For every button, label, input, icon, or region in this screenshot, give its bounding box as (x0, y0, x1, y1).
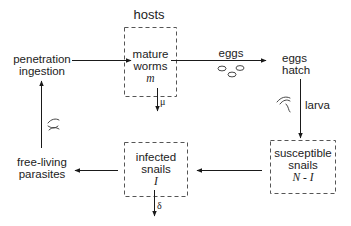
hosts-title: hosts (125, 8, 173, 22)
infected-snails-node: infected snails I (124, 151, 188, 187)
free-living-label: free-living (2, 156, 82, 168)
susceptible-snails-variable: N - I (268, 171, 338, 183)
cercaria-icon (48, 119, 59, 130)
eggs-edge-label: eggs (216, 47, 246, 59)
penetration-label: penetration (2, 53, 82, 65)
susceptible-snails-node: susceptible snails N - I (268, 147, 338, 183)
eggs-hatch-node: eggs hatch (276, 52, 332, 76)
mature-worms-label-1: mature (124, 48, 177, 60)
susceptible-snails-label-2: snails (268, 159, 338, 171)
susceptible-label: susceptible (268, 147, 338, 159)
eggs-icon (218, 66, 244, 77)
mature-worms-node: mature worms m (124, 48, 177, 84)
ingestion-label: ingestion (2, 65, 82, 77)
infected-snails-label-2: snails (124, 163, 188, 175)
larva-icon (277, 97, 290, 112)
free-living-parasites-node: free-living parasites (2, 156, 82, 180)
infected-label: infected (124, 151, 188, 163)
eggs-hatch-label-2: hatch (282, 64, 332, 76)
life-cycle-diagram (0, 0, 351, 226)
mature-worms-label-2: worms (124, 60, 177, 72)
eggs-hatch-label-1: eggs (282, 52, 332, 64)
larva-edge-label: larva (305, 99, 335, 111)
delta-rate-label: δ (157, 200, 167, 212)
mature-worms-variable: m (124, 72, 177, 84)
parasites-label: parasites (2, 168, 82, 180)
mu-rate-label: μ (160, 96, 170, 108)
infected-snails-variable: I (124, 175, 188, 187)
penetration-ingestion-node: penetration ingestion (2, 53, 82, 77)
